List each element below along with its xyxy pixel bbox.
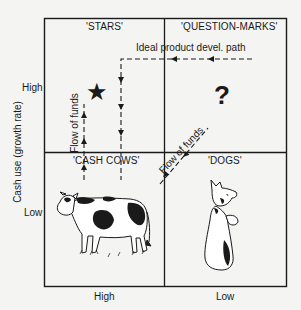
ideal-path-arrowheads bbox=[118, 56, 214, 136]
star-icon: ★ bbox=[86, 80, 108, 104]
quadrant-title-question-marks: 'QUESTION-MARKS' bbox=[181, 21, 278, 33]
y-tick-low: Low bbox=[24, 207, 42, 219]
quadrant-title-stars: 'STARS' bbox=[86, 21, 123, 33]
y-tick-high: High bbox=[22, 82, 43, 94]
flow-of-funds-vertical-label: Flow of funds bbox=[69, 93, 80, 152]
question-mark-icon: ? bbox=[214, 82, 230, 108]
quadrant-title-cash-cows: 'CASH COWS' bbox=[73, 155, 140, 167]
y-axis-label: Cash use (growth rate) bbox=[12, 101, 23, 203]
dog-illustration bbox=[205, 180, 238, 270]
quadrant-title-dogs: 'DOGS' bbox=[208, 155, 242, 167]
x-tick-low: Low bbox=[216, 291, 234, 303]
ideal-path-label: Ideal product devel. path bbox=[136, 42, 246, 54]
bcg-matrix-diagram: Cash use (growth rate) High Low High Low… bbox=[0, 0, 301, 310]
x-tick-high: High bbox=[94, 291, 115, 303]
